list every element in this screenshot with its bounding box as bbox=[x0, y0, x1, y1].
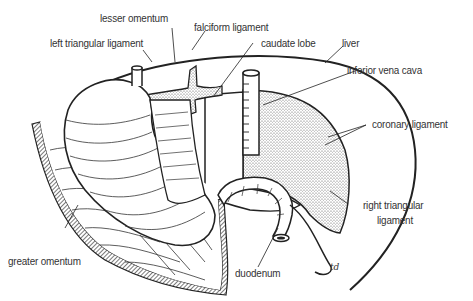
label-greater-omentum: greater omentum bbox=[8, 255, 81, 268]
anatomy-diagram: lesser omentum falciform ligament left t… bbox=[0, 0, 473, 301]
label-caudate-lobe: caudate lobe bbox=[261, 37, 316, 50]
label-duodenum: duodenum bbox=[235, 267, 280, 280]
label-coronary-ligament: coronary ligament bbox=[372, 118, 448, 131]
oesophagus-shape bbox=[132, 66, 142, 86]
label-right-triangular-ligament-line2: ligament bbox=[377, 214, 413, 227]
label-inferior-vena-cava: inferior vena cava bbox=[347, 64, 422, 77]
label-right-triangular-ligament-line1: right triangular bbox=[363, 199, 423, 212]
label-liver: liver bbox=[342, 37, 359, 50]
label-left-triangular-ligament: left triangular ligament bbox=[50, 37, 143, 50]
label-lesser-omentum: lesser omentum bbox=[100, 12, 168, 25]
artist-signature: td bbox=[330, 262, 339, 272]
label-falciform-ligament: falciform ligament bbox=[194, 21, 268, 34]
inferior-vena-cava-shape bbox=[243, 70, 259, 155]
